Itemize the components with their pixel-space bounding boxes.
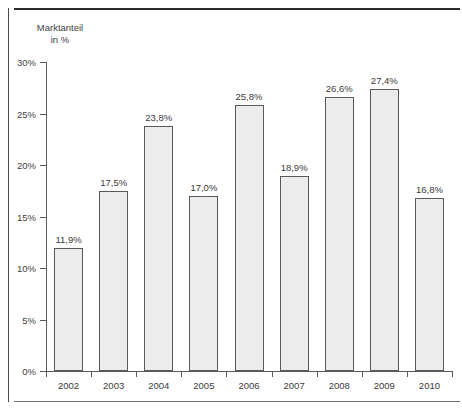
x-axis-category-label: 2010 <box>419 380 440 391</box>
bar-value-label: 23,8% <box>145 112 172 123</box>
bar-value-label: 25,8% <box>236 91 263 102</box>
x-axis-tick <box>91 371 92 377</box>
x-axis-tick <box>362 371 363 377</box>
bar[interactable] <box>189 196 218 371</box>
y-axis-tick: 25% <box>40 114 46 115</box>
x-axis-tick <box>181 371 182 377</box>
x-axis-tick <box>272 371 273 377</box>
x-axis-category-label: 2008 <box>329 380 350 391</box>
bar-value-label: 26,6% <box>326 83 353 94</box>
bar[interactable] <box>235 105 264 371</box>
bar-chart: Marktanteil in % 0%5%10%15%20%25%30%11,9… <box>0 0 462 410</box>
y-axis-tick-label: 5% <box>22 314 36 325</box>
x-axis-tick <box>46 371 47 377</box>
bar[interactable] <box>280 176 309 371</box>
y-axis-tick-label: 15% <box>17 211 36 222</box>
x-axis-category-label: 2006 <box>238 380 259 391</box>
x-axis-tick <box>407 371 408 377</box>
y-axis-title: Marktanteil in % <box>18 22 102 46</box>
bar-value-label: 17,0% <box>190 182 217 193</box>
bar[interactable] <box>99 191 128 371</box>
y-axis-tick: 10% <box>40 268 46 269</box>
x-axis-category-label: 2004 <box>148 380 169 391</box>
bar-value-label: 11,9% <box>55 234 81 245</box>
x-axis-tick <box>226 371 227 377</box>
y-axis-tick: 30% <box>40 62 46 63</box>
x-axis-category-label: 2005 <box>193 380 214 391</box>
x-axis-tick <box>452 371 453 377</box>
y-axis-tick-label: 30% <box>17 57 36 68</box>
bar-value-label: 16,8% <box>416 184 443 195</box>
x-axis-category-label: 2009 <box>374 380 395 391</box>
x-axis-tick <box>136 371 137 377</box>
y-axis-tick-label: 10% <box>17 263 36 274</box>
x-axis-category-label: 2007 <box>284 380 305 391</box>
x-axis-line <box>46 371 453 372</box>
x-axis-category-label: 2002 <box>58 380 79 391</box>
y-axis-title-line1: Marktanteil <box>37 22 83 33</box>
y-axis-tick-label: 20% <box>17 160 36 171</box>
bar[interactable] <box>144 126 173 371</box>
y-axis-title-line2: in % <box>18 34 102 46</box>
bar-value-label: 18,9% <box>281 162 308 173</box>
x-axis-tick <box>317 371 318 377</box>
bar[interactable] <box>325 97 354 371</box>
y-axis-tick-label: 0% <box>22 366 36 377</box>
y-axis-tick: 5% <box>40 320 46 321</box>
bar-value-label: 27,4% <box>371 75 398 86</box>
y-axis-tick: 15% <box>40 217 46 218</box>
y-axis-tick: 20% <box>40 165 46 166</box>
bar[interactable] <box>415 198 444 371</box>
plot-area: 0%5%10%15%20%25%30%11,9%17,5%23,8%17,0%2… <box>46 62 452 371</box>
bar[interactable] <box>54 248 83 371</box>
x-axis-category-label: 2003 <box>103 380 124 391</box>
bar-value-label: 17,5% <box>100 177 127 188</box>
y-axis-tick-label: 25% <box>17 108 36 119</box>
bar[interactable] <box>370 89 399 371</box>
